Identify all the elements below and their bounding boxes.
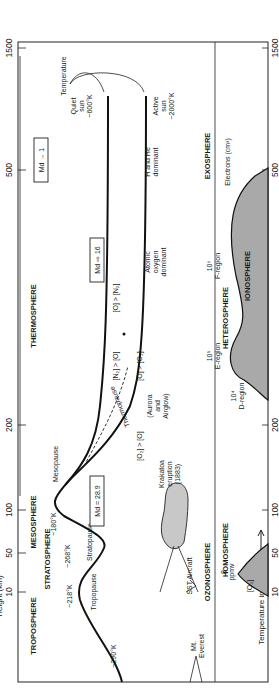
layer-mesosphere: MESOSPHERE [29,496,38,549]
tropopause-label: Tropopause [90,573,98,610]
atmosphere-diagram: 1500 500 200 100 50 10 Height (km) 1500 … [0,0,279,696]
layer-troposphere: TROPOSPHERE [29,597,38,655]
svg-text:200: 200 [270,418,279,432]
svg-text:(1883): (1883) [174,464,182,484]
svg-text:dominant: dominant [160,248,167,277]
svg-text:dominant: dominant [152,148,159,177]
svg-text:8: 8 [220,570,227,574]
svg-text:~218°K: ~218°K [66,584,73,608]
svg-text:E-region: E-region [214,343,222,370]
svg-text:ppmv: ppmv [228,563,236,581]
md-1: Md → 1 [38,148,45,173]
tick-100: 100 [4,503,14,517]
svg-text:and: and [154,400,161,412]
svg-text:10⁶: 10⁶ [206,261,213,272]
height-axis-label: Height (km) [0,575,4,617]
svg-text:10: 10 [270,587,279,597]
svg-text:sun: sun [78,100,85,111]
svg-text:100: 100 [270,503,279,517]
svg-text:Mt.: Mt. [190,641,197,651]
ozone-shade [238,544,268,596]
svg-text:F-region: F-region [214,253,222,279]
stratopause-label: Stratopause [86,523,94,561]
svg-text:50: 50 [270,548,279,558]
svg-text:Electrons (cm³): Electrons (cm³) [224,138,232,185]
svg-text:eruption: eruption [166,461,174,486]
svg-text:~268°K: ~268°K [64,544,71,568]
svg-text:[O₃]: [O₃] [246,580,254,592]
tick-500: 500 [4,163,14,177]
heterosphere-label: HETEROSPHERE [221,287,230,349]
temperature-pointer-arrow [70,73,104,92]
mesopause-label: Mesopause [52,446,60,482]
svg-text:(Aurora: (Aurora [146,394,154,417]
svg-text:1500: 1500 [270,38,279,57]
layer-stratosphere: STRATOSPHERE [43,529,52,590]
tick-10: 10 [4,587,14,597]
svg-text:[N₂] > [O]: [N₂] > [O] [112,351,120,380]
md-16: Md ⇨ 16 [94,246,101,274]
svg-text:H and He: H and He [144,147,151,177]
svg-text:~2000°K: ~2000°K [168,92,175,119]
tick-50: 50 [4,548,14,558]
temperature-label: Temperature [60,56,68,95]
svg-text:IONOSPHERE: IONOSPHERE [243,251,252,301]
svg-text:[O] > [O₂]: [O] > [O₂] [136,351,144,380]
height-axis: 1500 500 200 100 50 10 Height (km) [0,38,26,616]
tick-1500: 1500 [4,38,14,57]
svg-text:Airglow): Airglow) [162,393,170,418]
svg-text:~180°K: ~180°K [50,512,57,536]
svg-text:10⁵: 10⁵ [206,351,213,362]
svg-text:Atomic: Atomic [144,251,151,273]
svg-text:D-region: D-region [238,382,246,409]
svg-text:~600°K: ~600°K [86,94,93,118]
svg-text:500: 500 [270,163,279,177]
svg-text:Krakatoa: Krakatoa [158,460,165,488]
svg-text:[O] > [N₂]: [O] > [N₂] [112,283,120,312]
svg-text:10⁴: 10⁴ [230,391,237,402]
tick-200: 200 [4,418,14,432]
svg-text:oxygen: oxygen [152,251,160,274]
ozonosphere-label: OZONOSPHERE [203,543,212,601]
svg-text:Quiet: Quiet [70,98,78,115]
svg-text:Everest: Everest [198,634,205,658]
md-28-9: Md = 28.9 [94,485,101,516]
svg-text:[O₂] > [O]: [O₂] > [O] [136,431,144,460]
layer-thermosphere: THERMOSPHERE [29,284,38,347]
svg-text:SST Aircraft: SST Aircraft [186,557,193,594]
molecular-weight: Md → 1 Md ⇨ 16 Md = 28.9 [34,138,104,526]
exosphere-label: EXOSPHERE [203,133,212,180]
svg-text:Active: Active [152,96,159,115]
svg-text:sun: sun [160,100,167,111]
svg-text:~290°K: ~290°K [110,644,117,668]
